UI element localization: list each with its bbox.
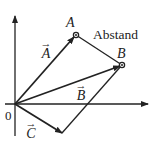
vector-diagram: A Abstand B 0 → A → B → C <box>0 0 154 146</box>
vector-b-label: → B <box>74 82 88 103</box>
vector-c-label: → C <box>24 120 38 141</box>
distance-label: Abstand <box>93 28 138 42</box>
origin-label: 0 <box>5 109 12 122</box>
point-a-label: A <box>66 16 75 30</box>
vector-a-label: → A <box>39 40 53 61</box>
vector-c-arrow <box>15 104 62 133</box>
point-b-label: B <box>117 47 126 61</box>
